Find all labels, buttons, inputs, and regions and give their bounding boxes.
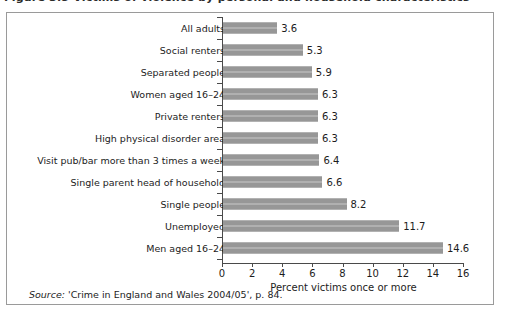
bar-row: Women aged 16–246.3: [7, 83, 493, 105]
figure-caption-text: Figure 3.5 Victims of violence by person…: [4, 0, 470, 4]
x-axis-tick-label: 10: [366, 268, 379, 279]
source-note: Source: 'Crime in England and Wales 2004…: [29, 289, 283, 300]
bar-value-label: 8.2: [351, 199, 367, 210]
bar: [223, 177, 322, 188]
y-axis-tick: [217, 61, 222, 62]
bar-value-label: 11.7: [403, 221, 425, 232]
category-label: Visit pub/bar more than 3 times a week: [37, 155, 225, 166]
bar-row: Single people8.2: [7, 193, 493, 215]
bar: [223, 155, 319, 166]
x-axis-tick: [373, 263, 374, 267]
y-axis-tick: [217, 127, 222, 128]
y-axis-tick: [217, 83, 222, 84]
y-axis-tick: [217, 215, 222, 216]
x-axis-tick-label: 14: [427, 268, 440, 279]
bar: [223, 111, 318, 122]
x-axis-tick: [343, 263, 344, 267]
bar-row: Unemployed11.7: [7, 215, 493, 237]
bar: [223, 243, 443, 254]
x-axis-tick-label: 16: [457, 268, 470, 279]
bar-value-label: 6.3: [322, 111, 338, 122]
y-axis-tick: [217, 17, 222, 18]
x-axis-tick: [312, 263, 313, 267]
category-label: Social renters: [160, 45, 225, 56]
figure-box: All adults3.6Social renters5.3Separated …: [6, 12, 494, 305]
figure-caption-clipped: Figure 3.5 Victims of violence by person…: [0, 0, 516, 7]
bar-value-label: 6.6: [326, 177, 342, 188]
y-axis-tick: [217, 105, 222, 106]
x-axis-tick-label: 6: [309, 268, 315, 279]
bar-row: Social renters5.3: [7, 39, 493, 61]
x-axis-tick: [252, 263, 253, 267]
y-axis-tick: [217, 171, 222, 172]
y-axis-tick: [217, 193, 222, 194]
bar-value-label: 6.4: [323, 155, 339, 166]
bar-value-label: 14.6: [447, 243, 469, 254]
x-axis-tick-label: 0: [219, 268, 225, 279]
x-axis-tick: [463, 263, 464, 267]
x-axis-tick-label: 2: [249, 268, 255, 279]
y-axis-tick: [217, 39, 222, 40]
x-axis-tick: [433, 263, 434, 267]
source-label: Source:: [29, 289, 65, 300]
bar-row: All adults3.6: [7, 17, 493, 39]
x-axis-tick-label: 4: [279, 268, 285, 279]
category-label: Men aged 16–24: [146, 243, 225, 254]
bar-row: Single parent head of household6.6: [7, 171, 493, 193]
category-label: Private renters: [155, 111, 225, 122]
category-label: Unemployed: [165, 221, 225, 232]
source-text: 'Crime in England and Wales 2004/05', p.…: [65, 289, 282, 300]
chart-plot-area: All adults3.6Social renters5.3Separated …: [7, 13, 493, 268]
bar-row: Private renters6.3: [7, 105, 493, 127]
y-axis-tick: [217, 237, 222, 238]
category-label: All adults: [181, 23, 225, 34]
x-axis-tick: [403, 263, 404, 267]
x-axis-tick-label: 12: [396, 268, 409, 279]
category-label: Separated people: [141, 67, 225, 78]
bar: [223, 67, 312, 78]
bar-value-label: 3.6: [281, 23, 297, 34]
x-axis-tick-label: 8: [339, 268, 345, 279]
x-axis-tick: [282, 263, 283, 267]
bar: [223, 23, 277, 34]
category-label: High physical disorder area: [95, 133, 225, 144]
category-label: Single people: [161, 199, 225, 210]
bar: [223, 45, 303, 56]
bar-value-label: 6.3: [322, 89, 338, 100]
category-label: Single parent head of household: [71, 177, 225, 188]
bar: [223, 221, 399, 232]
category-label: Women aged 16–24: [131, 89, 225, 100]
bar: [223, 199, 347, 210]
bar: [223, 133, 318, 144]
bar-row: Visit pub/bar more than 3 times a week6.…: [7, 149, 493, 171]
bar-value-label: 6.3: [322, 133, 338, 144]
bar-row: High physical disorder area6.3: [7, 127, 493, 149]
y-axis-tick: [217, 259, 222, 260]
bar-value-label: 5.9: [316, 67, 332, 78]
bar: [223, 89, 318, 100]
y-axis-tick: [217, 149, 222, 150]
bar-row: Separated people5.9: [7, 61, 493, 83]
x-axis-tick: [222, 263, 223, 267]
bar-row: Men aged 16–2414.6: [7, 237, 493, 259]
bar-value-label: 5.3: [307, 45, 323, 56]
